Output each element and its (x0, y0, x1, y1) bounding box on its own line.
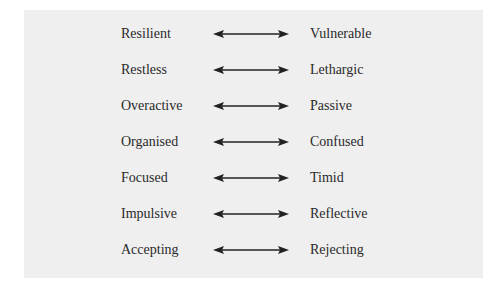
left-trait: Impulsive (121, 204, 177, 224)
left-trait: Resilient (121, 24, 171, 44)
pair-row: Impulsive Reflective (24, 204, 483, 224)
pair-row: Organised Confused (24, 132, 483, 152)
pair-row: Accepting Rejecting (24, 240, 483, 260)
right-trait: Rejecting (310, 240, 364, 260)
pair-row: Overactive Passive (24, 96, 483, 116)
double-headed-arrow-icon (213, 244, 289, 256)
double-headed-arrow-icon (213, 64, 289, 76)
left-trait: Restless (121, 60, 167, 80)
left-trait: Focused (121, 168, 168, 188)
pair-row: Restless Lethargic (24, 60, 483, 80)
right-trait: Vulnerable (310, 24, 371, 44)
double-headed-arrow-icon (213, 136, 289, 148)
right-trait: Reflective (310, 204, 368, 224)
trait-continuum-panel: Resilient Vulnerable Restless Lethargic … (24, 10, 483, 278)
left-trait: Overactive (121, 96, 182, 116)
right-trait: Passive (310, 96, 352, 116)
right-trait: Confused (310, 132, 364, 152)
double-headed-arrow-icon (213, 28, 289, 40)
pair-row: Resilient Vulnerable (24, 24, 483, 44)
left-trait: Organised (121, 132, 178, 152)
double-headed-arrow-icon (213, 208, 289, 220)
right-trait: Lethargic (310, 60, 363, 80)
double-headed-arrow-icon (213, 172, 289, 184)
right-trait: Timid (310, 168, 344, 188)
double-headed-arrow-icon (213, 100, 289, 112)
pair-row: Focused Timid (24, 168, 483, 188)
left-trait: Accepting (121, 240, 179, 260)
